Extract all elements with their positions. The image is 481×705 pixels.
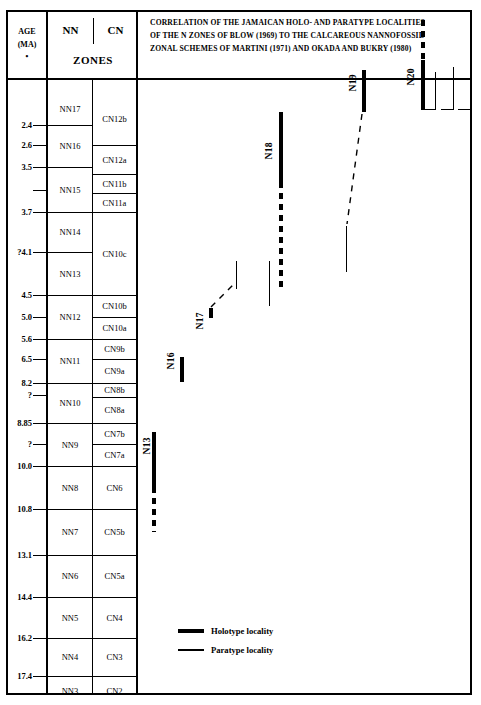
nn-zone-label: NN8 <box>48 483 92 493</box>
nn-zone-boundary <box>48 295 92 296</box>
cn-zone-label: CN8a <box>93 405 136 415</box>
nn-zone-label: NN9 <box>48 440 92 450</box>
nn-zone-label: NN12 <box>48 312 92 322</box>
nn-zone-label: NN7 <box>48 527 92 537</box>
age-tick <box>33 317 46 318</box>
cn-zone-label: CN6 <box>93 483 136 493</box>
age-tick-label: 5.6 <box>21 334 32 344</box>
age-header-line2: (MA) <box>18 39 37 51</box>
connector-line-n17 <box>211 284 234 307</box>
age-tick-label: 2.4 <box>21 120 32 130</box>
cn-zone-label: CN8b <box>93 385 136 395</box>
nn-zone-boundary <box>48 125 92 126</box>
nn-zone-label: NN11 <box>48 356 92 366</box>
nn-zone-label: NN10 <box>48 398 92 408</box>
age-tick <box>33 466 46 467</box>
holotype-dashed-marker-n13 <box>152 487 156 532</box>
nn-zone-boundary <box>48 466 92 467</box>
nn-zone-label: NN15 <box>48 185 92 195</box>
holotype-marker-n16 <box>180 357 184 382</box>
nn-zone-boundary <box>48 167 92 168</box>
n-zone-label-n19: N19 <box>348 74 358 92</box>
cn-zone-boundary <box>93 193 136 194</box>
age-tick <box>33 295 46 296</box>
nn-zone-boundary <box>48 212 92 213</box>
legend-label: Holotype locality <box>211 626 273 636</box>
paratype-marker-n20-3 <box>470 54 471 110</box>
table-header: AGE (MA) • NN CN ZONES CORRELATION OF TH… <box>8 12 470 80</box>
age-column-header: AGE (MA) • <box>8 12 48 78</box>
age-tick-label: 3.7 <box>21 207 32 217</box>
title-line-3: ZONAL SCHEMES OF MARTINI (1971) AND OKAD… <box>150 42 425 55</box>
age-tick-label: 16.2 <box>17 633 32 643</box>
legend-label: Paratype locality <box>211 645 273 655</box>
cn-zone-boundary <box>93 638 136 639</box>
age-tick-label: ?4.1 <box>17 247 32 257</box>
chart-frame: AGE (MA) • NN CN ZONES CORRELATION OF TH… <box>6 10 472 695</box>
age-tick <box>33 676 46 677</box>
nn-zone-label: NN4 <box>48 652 92 662</box>
nn-zone-label: NN16 <box>48 141 92 151</box>
age-tick <box>33 395 46 396</box>
age-tick <box>33 359 46 360</box>
holotype-marker-n20 <box>421 60 425 110</box>
connector-line-n19 <box>347 114 362 224</box>
cn-zone-label: CN10b <box>93 301 136 311</box>
age-tick-label: 10.0 <box>17 461 32 471</box>
nn-zone-boundary <box>48 638 92 639</box>
cn-zone-label: CN4 <box>93 613 136 623</box>
cn-zone-label: CN12b <box>93 114 136 124</box>
n-zone-label-n20: N20 <box>406 68 416 86</box>
nn-zone-label: NN3 <box>48 686 92 696</box>
cn-zone-boundary <box>93 676 136 677</box>
table-body: 2.42.63.53.7?4.14.55.05.66.58.2?8.85?10.… <box>8 80 470 693</box>
cn-zone-column: CN12bCN12aCN11bCN11aCN10cCN10bCN10aCN9bC… <box>93 80 138 693</box>
holotype-dashed-marker-n20 <box>421 20 425 60</box>
cn-zone-boundary <box>93 339 136 340</box>
cn-zone-boundary <box>93 317 136 318</box>
cn-zone-label: CN11b <box>93 179 136 189</box>
cn-zone-label: CN10c <box>93 249 136 259</box>
age-tick <box>33 597 46 598</box>
cn-zone-boundary <box>93 295 136 296</box>
cn-zone-label: CN12a <box>93 155 136 165</box>
holotype-marker-n19 <box>362 70 366 112</box>
paratype-marker-n19-1 <box>346 226 347 272</box>
legend-item: Paratype locality <box>178 645 273 655</box>
cn-column-header: CN <box>93 15 138 45</box>
holotype-marker-n13 <box>152 432 156 487</box>
cn-zone-label: CN9a <box>93 366 136 376</box>
cn-zone-label: CN2 <box>93 686 136 696</box>
age-tick <box>33 190 46 191</box>
age-header-dot-icon: • <box>26 51 29 63</box>
paratype-marker-n18-1 <box>269 261 270 306</box>
age-tick-label: 10.8 <box>17 504 32 514</box>
cn-zone-label: CN7b <box>93 429 136 439</box>
age-tick-label: 13.1 <box>17 550 32 560</box>
age-tick <box>33 339 46 340</box>
cn-zone-boundary <box>93 555 136 556</box>
title-line-2: OF THE N ZONES OF BLOW (1969) TO THE CAL… <box>150 29 425 42</box>
paratype-marker-n20-1 <box>435 72 436 110</box>
nn-zone-boundary <box>48 252 92 253</box>
age-tick <box>33 212 46 213</box>
nn-zone-boundary <box>48 555 92 556</box>
n-zone-label-n16: N16 <box>166 352 176 370</box>
holotype-marker-n17 <box>209 308 213 318</box>
n-zone-label-n17: N17 <box>195 312 205 330</box>
age-tick-label: 17.4 <box>17 671 32 681</box>
nn-zone-label: NN6 <box>48 571 92 581</box>
cn-zone-label: CN7a <box>93 450 136 460</box>
nn-zone-label: NN17 <box>48 104 92 114</box>
cn-zone-boundary <box>93 423 136 424</box>
cn-zone-boundary <box>93 444 136 445</box>
nn-zone-label: NN5 <box>48 613 92 623</box>
cn-zone-label: CN3 <box>93 652 136 662</box>
age-tick-label: 6.5 <box>21 354 32 364</box>
paratype-marker-n20-2 <box>453 67 454 110</box>
zones-column-header: NN CN ZONES <box>48 12 138 78</box>
age-tick <box>33 125 46 126</box>
cn-zone-label: CN10a <box>93 323 136 333</box>
cn-zone-boundary <box>93 212 136 213</box>
age-tick <box>33 145 46 146</box>
